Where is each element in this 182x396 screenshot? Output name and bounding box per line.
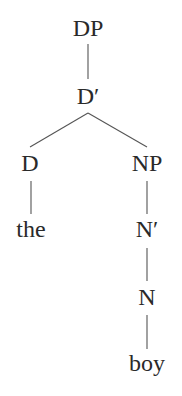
node-dbar: D′ [77,83,100,109]
node-d: D [21,150,38,176]
edge-dbar-np [88,113,147,147]
syntax-tree-diagram: DP D′ D NP the N′ N boy [0,0,182,396]
node-nbar: N′ [136,216,159,242]
edge-dbar-d [30,113,88,147]
node-n: N [138,284,155,310]
node-np: NP [132,150,163,176]
node-dp: DP [73,15,104,41]
leaf-boy: boy [129,350,165,376]
leaf-the: the [16,216,45,242]
